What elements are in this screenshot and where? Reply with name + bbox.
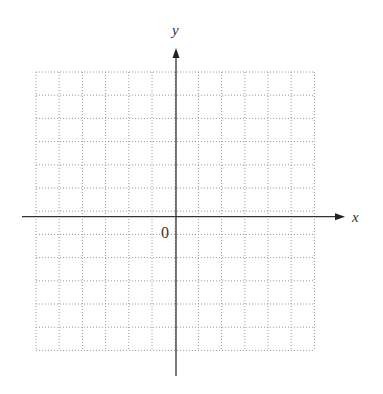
origin-label: 0	[161, 224, 169, 241]
coordinate-plane: x y 0	[0, 0, 383, 394]
x-axis-label: x	[351, 209, 359, 225]
y-axis-label: y	[170, 22, 179, 38]
dotted-grid	[36, 72, 314, 350]
x-axis-arrow-icon	[335, 213, 345, 220]
y-axis-arrow-icon	[173, 48, 180, 58]
